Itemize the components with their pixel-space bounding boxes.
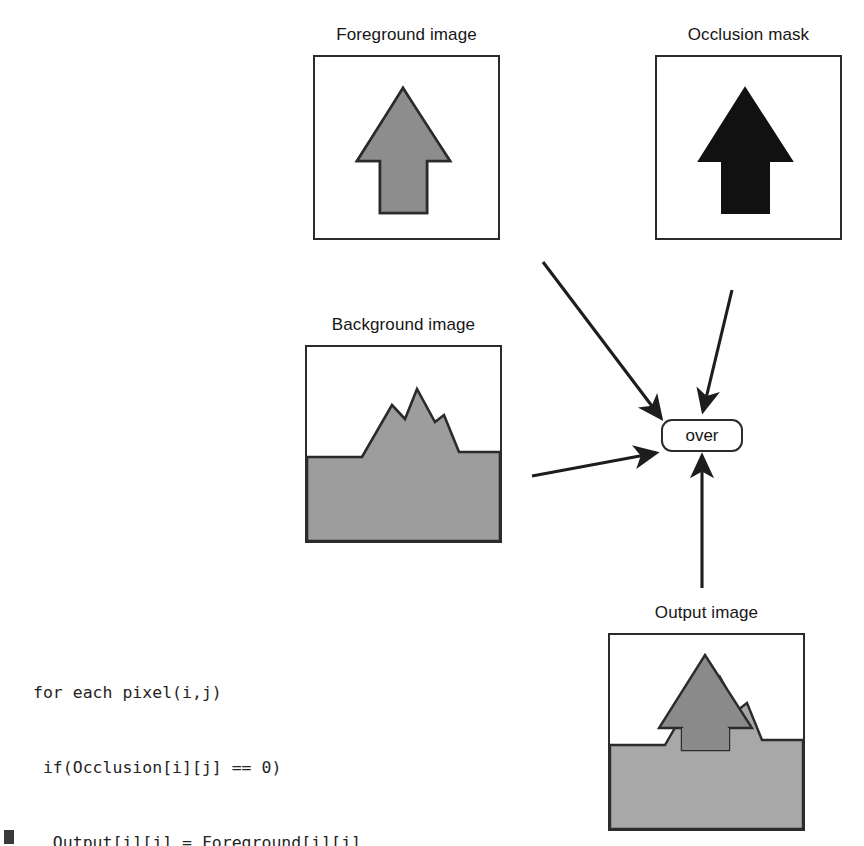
panel-label-occlusion: Occlusion mask [655,25,842,45]
occlusion-arrow-icon [657,57,840,238]
panel-occlusion-mask: Occlusion mask [655,25,842,240]
operator-over-node[interactable]: over [661,419,743,452]
frame-foreground-image [313,55,500,240]
pseudocode-line: if(Occlusion[i][j] == 0) [33,755,361,780]
panel-foreground-image: Foreground image [313,25,500,240]
frame-background-image [305,345,502,543]
panel-label-output: Output image [608,603,805,623]
pseudocode-block: for each pixel(i,j) if(Occlusion[i][j] =… [33,630,361,846]
pseudocode-line: for each pixel(i,j) [33,680,361,705]
pseudocode-line: Output[i][j] = Foreground[i][j] [33,830,361,846]
panel-label-background: Background image [305,315,502,335]
operator-over-label: over [685,427,718,445]
arrow-occlusion-to-over [703,290,732,411]
panel-output-image: Output image [608,603,805,831]
panel-background-image: Background image [305,315,502,543]
arrow-background-to-over [532,453,656,476]
background-mountain-icon [307,347,500,541]
frame-occlusion-mask [655,55,842,240]
panel-label-foreground: Foreground image [313,25,500,45]
output-composite-icon [610,635,803,829]
arrow-foreground-to-over [543,262,661,418]
foreground-arrow-icon [315,57,498,238]
frame-output-image [608,633,805,831]
page-corner-artifact [4,830,14,844]
